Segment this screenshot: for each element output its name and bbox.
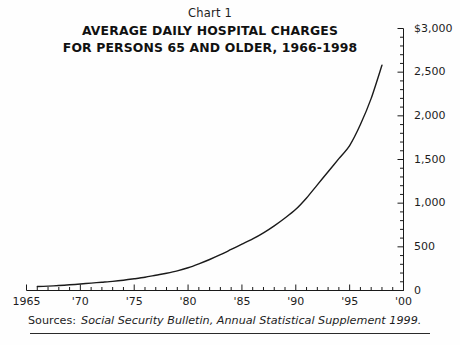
bottom-rule [30,333,430,334]
x-axis-ticks [27,285,404,291]
y-axis-tick-label: $3,000 [414,22,458,35]
x-axis-tick-label: '85 [233,295,250,308]
source-label: Sources: [28,314,76,327]
y-axis-tick-label: 0 [414,284,458,297]
x-axis-tick-label: '90 [287,295,304,308]
x-axis-tick-label: '00 [395,295,412,308]
y-axis-tick-label: 2,000 [414,109,458,122]
plot-area [0,0,460,345]
y-axis-tick-label: 500 [414,240,458,253]
y-axis-ticks [398,29,404,291]
x-axis-tick-label: '95 [341,295,358,308]
y-axis-tick-label: 1,000 [414,196,458,209]
x-axis-tick-label: '70 [72,295,89,308]
source-text: Social Security Bulletin, Annual Statist… [81,314,421,327]
x-axis-tick-label: '80 [180,295,197,308]
y-axis-tick-label: 2,500 [414,65,458,78]
y-axis-tick-label: 1,500 [414,153,458,166]
x-axis-tick-label: '75 [126,295,143,308]
data-series-line [37,65,382,286]
axis-group [27,29,404,291]
source-note: Sources:Social Security Bulletin, Annual… [28,314,421,327]
x-axis-tick-label: 1965 [13,295,41,308]
chart-page: Chart 1 AVERAGE DAILY HOSPITAL CHARGES F… [0,0,460,345]
